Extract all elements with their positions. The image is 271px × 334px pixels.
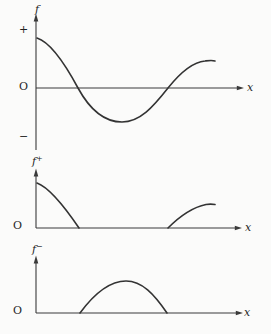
x-axis-label-f-minus: x — [244, 307, 250, 318]
f-axis-label: f — [35, 4, 39, 15]
minus-sign-label: − — [19, 131, 28, 142]
arrow-right-icon — [237, 86, 244, 90]
origin-label-f-minus: O — [13, 305, 22, 316]
f-minus-curve — [80, 281, 167, 313]
origin-label-f-plus: O — [13, 220, 22, 231]
arrow-right-icon — [236, 311, 243, 315]
f-minus-axis-label: f− — [32, 243, 43, 255]
panel-f-plus — [34, 169, 242, 231]
minus-superscript: − — [36, 242, 43, 251]
origin-label-f: O — [19, 81, 28, 92]
panel-f — [34, 14, 244, 151]
f-plus-axis-label: f+ — [32, 155, 43, 167]
figure-canvas — [0, 0, 271, 334]
arrow-up-icon — [34, 169, 39, 177]
plus-sign-label: + — [19, 24, 28, 35]
arrow-up-icon — [34, 256, 39, 264]
f-plus-curve — [37, 183, 215, 228]
panel-f-minus — [34, 256, 243, 316]
arrow-right-icon — [235, 226, 242, 230]
f-curve — [37, 38, 215, 122]
x-axis-label-f-plus: x — [245, 222, 251, 233]
x-axis-label-f: x — [247, 82, 253, 93]
plus-superscript: + — [36, 154, 43, 163]
